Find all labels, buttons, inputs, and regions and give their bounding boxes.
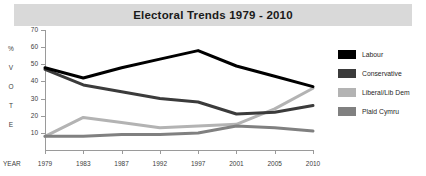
legend-item-liberal-lib-dem: Liberal/Lib Dem: [338, 88, 424, 97]
series-line-labour: [45, 51, 313, 87]
legend-swatch-labour: [338, 50, 356, 59]
legend-item-conservative: Conservative: [338, 69, 424, 78]
legend-label-conservative: Conservative: [362, 70, 402, 77]
chart-screenshot: Electoral Trends 1979 - 2010 % V O T E Y…: [0, 0, 426, 176]
chart-legend: Labour Conservative Liberal/Lib Dem Plai…: [338, 50, 424, 126]
legend-label-liberal-lib-dem: Liberal/Lib Dem: [362, 89, 410, 96]
legend-item-plaid-cymru: Plaid Cymru: [338, 107, 424, 116]
legend-swatch-conservative: [338, 69, 356, 78]
legend-item-labour: Labour: [338, 50, 424, 59]
legend-swatch-liberal-lib-dem: [338, 88, 356, 97]
legend-label-plaid-cymru: Plaid Cymru: [362, 108, 399, 115]
legend-label-labour: Labour: [362, 51, 383, 58]
legend-swatch-plaid-cymru: [338, 107, 356, 116]
